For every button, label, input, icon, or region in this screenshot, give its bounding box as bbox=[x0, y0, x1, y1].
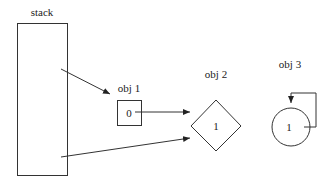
edge-obj3-self-loop bbox=[291, 93, 316, 127]
obj3-label: obj 3 bbox=[279, 58, 302, 70]
stack-node: stack bbox=[18, 6, 68, 176]
obj2-label: obj 2 bbox=[205, 68, 227, 80]
edge-stack-to-obj2 bbox=[61, 138, 190, 157]
reference-diagram: stack obj 1 0 obj 2 1 obj 3 1 bbox=[0, 0, 334, 184]
edge-stack-to-obj1 bbox=[61, 69, 110, 94]
obj3-value: 1 bbox=[286, 121, 292, 133]
obj2-node: obj 2 1 bbox=[191, 68, 241, 151]
obj1-value: 0 bbox=[126, 107, 132, 119]
stack-label: stack bbox=[31, 6, 54, 18]
stack-rect bbox=[18, 24, 68, 176]
obj2-value: 1 bbox=[213, 120, 219, 132]
obj1-node: obj 1 0 bbox=[118, 82, 142, 126]
obj1-label: obj 1 bbox=[118, 82, 140, 94]
